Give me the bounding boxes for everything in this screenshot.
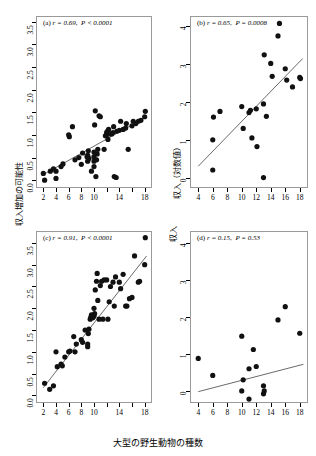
y-axis-tick <box>32 90 36 91</box>
x-axis-tick-label: 16 <box>282 193 290 202</box>
x-axis-tick-label: 6 <box>211 193 215 202</box>
data-point <box>86 156 91 161</box>
data-point <box>86 327 91 332</box>
x-axis-tick <box>242 188 243 192</box>
x-axis-tick-label: 2 <box>41 193 45 202</box>
data-point <box>113 274 118 279</box>
left-y-axis-title: 収入増加の可能性 <box>13 146 24 242</box>
y-axis-tick <box>32 243 36 244</box>
panel-c-x-axis: 2468101418 <box>36 403 152 423</box>
x-axis-tick <box>81 188 82 192</box>
y-axis-tick-label: 1.0 <box>26 355 35 364</box>
panel-a-p: P < 0.0001 <box>81 19 113 27</box>
data-point <box>290 84 295 89</box>
data-point <box>74 341 79 346</box>
y-axis-tick-label: 2.0 <box>26 93 35 102</box>
panel-c-statistics: (c) r = 0.91, P < 0.0001 <box>43 234 113 242</box>
x-axis-tick <box>94 403 95 407</box>
y-axis-tick <box>32 330 36 331</box>
x-axis-tick <box>56 188 57 192</box>
x-axis-tick <box>285 188 286 192</box>
data-point <box>112 304 117 309</box>
y-axis-tick <box>32 135 36 136</box>
data-point <box>239 104 244 109</box>
x-axis-tick-label: 8 <box>225 408 229 417</box>
y-axis-tick-label: 3.0 <box>26 268 35 277</box>
data-point <box>283 66 288 71</box>
x-axis-title: 大型の野生動物の種数 <box>0 436 316 449</box>
x-axis-tick <box>119 403 120 407</box>
data-point <box>239 334 244 339</box>
y-axis-tick-label: 3 <box>180 280 189 284</box>
x-axis-tick <box>198 188 199 192</box>
data-point <box>217 109 222 114</box>
y-axis-tick-label: 2.0 <box>26 311 35 320</box>
y-axis-tick-label: 1.0 <box>26 138 35 147</box>
x-axis-tick <box>132 403 133 407</box>
data-point <box>261 175 266 180</box>
panel-d-plot-area <box>190 231 308 403</box>
data-point <box>104 277 109 282</box>
x-axis-tick-label: 14 <box>116 408 124 417</box>
data-point <box>246 396 251 401</box>
x-axis-tick <box>43 403 44 407</box>
panel-b: (b) r = 0.65, P = 0.0008 01234 468101214… <box>158 0 316 215</box>
data-point <box>121 272 126 277</box>
panel-c: (c) r = 0.91, P < 0.0001 0.00.51.01.52.0… <box>0 215 158 430</box>
panel-d-label: (d) <box>197 234 205 242</box>
right-y-axis-title-bottom: 収入 <box>167 214 178 254</box>
data-point <box>60 363 65 368</box>
x-axis-tick-label: 18 <box>141 408 149 417</box>
x-axis-tick <box>285 403 286 407</box>
data-point <box>95 151 100 156</box>
y-axis-tick-label: 0.0 <box>26 183 35 192</box>
x-axis-tick <box>213 188 214 192</box>
data-point <box>275 317 280 322</box>
x-axis-tick-label: 16 <box>282 408 290 417</box>
panel-d-x-axis: 4681012141618 <box>190 403 308 423</box>
y-axis-tick-label: 4 <box>180 27 189 31</box>
x-axis-tick-label: 18 <box>141 193 149 202</box>
x-axis-tick-label: 4 <box>54 193 58 202</box>
data-point <box>210 137 215 142</box>
panel-b-label: (b) <box>197 19 205 27</box>
y-axis-tick-label: 4 <box>180 243 189 247</box>
data-point <box>196 356 201 361</box>
panel-c-p: P < 0.0001 <box>81 234 113 242</box>
data-point <box>275 33 280 38</box>
data-point <box>126 147 131 152</box>
data-point <box>85 344 90 349</box>
data-point <box>254 364 259 369</box>
y-axis-tick <box>32 67 36 68</box>
x-axis-tick <box>227 188 228 192</box>
x-axis-tick-label: 14 <box>267 193 275 202</box>
data-point <box>76 155 81 160</box>
data-point <box>53 349 58 354</box>
data-point <box>92 311 97 316</box>
panel-b-plot-area <box>190 16 308 188</box>
x-axis-tick-label: 12 <box>253 408 261 417</box>
panel-d-statistics: (d) r = 0.15, P = 0.53 <box>197 234 260 242</box>
data-point <box>123 125 128 130</box>
panel-a-r: r = 0.69, <box>53 19 78 27</box>
panel-a-x-axis: 2468101418 <box>36 188 152 208</box>
data-point <box>239 388 244 393</box>
data-point <box>92 122 97 127</box>
data-point <box>70 124 75 129</box>
data-point <box>284 77 289 82</box>
data-point <box>111 124 116 129</box>
data-point <box>80 340 85 345</box>
data-point <box>248 108 253 113</box>
figure-panel-grid: (a) r = 0.69, P < 0.0001 0.00.51.01.52.0… <box>0 0 316 456</box>
data-point <box>246 366 251 371</box>
data-point <box>98 114 103 119</box>
x-axis-tick <box>300 403 301 407</box>
x-axis-tick <box>145 403 146 407</box>
data-point <box>264 114 269 119</box>
panel-a-plot-area <box>36 16 152 188</box>
data-point <box>261 383 266 388</box>
y-axis-tick <box>32 22 36 23</box>
x-axis-tick-label: 14 <box>116 193 124 202</box>
data-point <box>210 373 215 378</box>
data-point <box>124 121 129 126</box>
